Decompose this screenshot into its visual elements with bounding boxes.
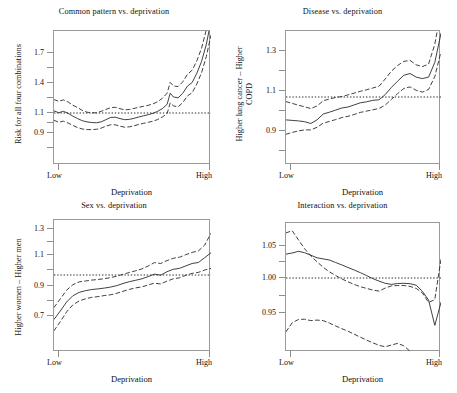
y-axis-label-line1: Higher lung cancer – Higher [235, 24, 244, 164]
estimate-curve [286, 33, 441, 123]
y-tick-label: 1.00 [248, 273, 276, 282]
x-tick-mark [290, 164, 291, 170]
x-tick-mark [290, 351, 291, 357]
plot-curves [54, 220, 211, 352]
upper-ci-curve [54, 233, 211, 307]
panel-disease: Disease vs. deprivation Higher lung canc… [228, 4, 457, 200]
x-tick-label: High [426, 358, 442, 367]
plot-curves [286, 223, 441, 352]
panel-title: Disease vs. deprivation [228, 7, 457, 16]
x-axis-label: Deprivation [53, 187, 210, 197]
x-axis-label: Deprivation [285, 187, 440, 197]
estimate-curve [54, 253, 211, 320]
x-axis-label: Deprivation [285, 374, 440, 384]
lower-ci-curve [286, 52, 441, 135]
estimate-curve [286, 251, 441, 325]
x-tick-label: High [426, 171, 442, 180]
y-tick-label: 0.9 [22, 128, 44, 137]
y-tick-label: 1.1 [22, 250, 44, 259]
panel-sex: Sex vs. deprivation Higher women – Highe… [0, 198, 228, 393]
x-tick-mark [439, 164, 440, 170]
y-tick-label: 0.9 [22, 281, 44, 290]
plot-curves [54, 31, 211, 165]
panel-title: Interaction vs. deprivation [228, 201, 457, 210]
y-tick-label: 1.3 [254, 46, 276, 55]
estimate-curve [54, 31, 211, 123]
x-tick-mark [58, 164, 59, 170]
plot-area [53, 30, 210, 164]
panel-title: Common pattern vs. deprivation [0, 7, 228, 16]
plot-area [285, 222, 440, 351]
y-tick-label: 1.7 [22, 48, 44, 57]
y-tick-label: 0.95 [248, 308, 276, 317]
y-axis-label-line2: COPD [245, 24, 254, 164]
plot-curves [286, 31, 441, 165]
lower-ci-curve [286, 319, 441, 352]
y-tick-label: 1.4 [22, 78, 44, 87]
y-tick-label: 0.9 [254, 126, 276, 135]
y-tick-label: 1.3 [22, 224, 44, 233]
x-tick-label: Low [47, 171, 62, 180]
y-tick-label: 1.1 [22, 108, 44, 117]
lower-ci-curve [54, 269, 211, 331]
y-tick-label: 0.7 [22, 311, 44, 320]
y-tick-label: 1.05 [248, 241, 276, 250]
x-tick-mark [58, 351, 59, 357]
figure-panel-grid: Common pattern vs. deprivation Risk for … [0, 0, 457, 393]
x-tick-mark [209, 351, 210, 357]
panel-interaction: Interaction vs. deprivation 1.05 1.00 0.… [228, 198, 457, 393]
x-tick-label: Low [279, 358, 294, 367]
lower-ci-curve [54, 35, 211, 129]
panel-title: Sex vs. deprivation [0, 201, 228, 210]
panel-common-pattern: Common pattern vs. deprivation Risk for … [0, 4, 228, 200]
upper-ci-curve [286, 231, 441, 303]
x-tick-label: Low [279, 171, 294, 180]
upper-ci-curve [54, 31, 211, 113]
plot-area [53, 219, 210, 351]
y-tick-label: 1.1 [254, 86, 276, 95]
x-tick-label: Low [47, 358, 62, 367]
x-tick-mark [439, 351, 440, 357]
x-axis-label: Deprivation [53, 374, 210, 384]
x-tick-mark [209, 164, 210, 170]
x-tick-label: High [196, 171, 212, 180]
plot-area [285, 30, 440, 164]
x-tick-label: High [196, 358, 212, 367]
